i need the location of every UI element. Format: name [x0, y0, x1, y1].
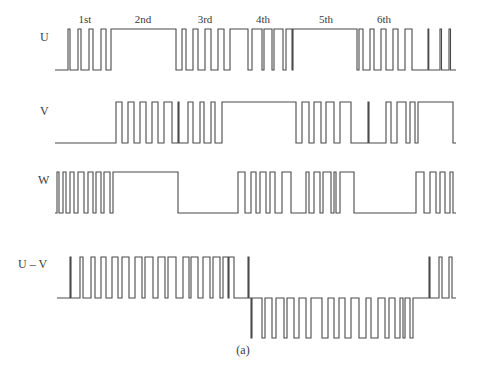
waveform-w — [55, 172, 456, 213]
waveform-u-v — [57, 257, 456, 338]
waveform-v — [55, 102, 456, 143]
waveform-u — [55, 29, 456, 70]
waveform-canvas — [0, 0, 479, 379]
figure-caption: (a) — [236, 343, 249, 358]
